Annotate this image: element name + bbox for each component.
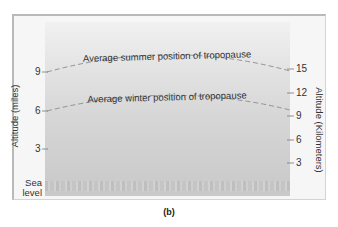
panel-label: (b)	[163, 207, 175, 217]
tropopause-curves	[0, 0, 338, 227]
right-tick-12: 12	[296, 88, 307, 98]
left-tick-3: 3	[35, 144, 41, 154]
right-tick-6: 6	[296, 135, 302, 145]
sea-level-label-line2: level	[20, 188, 42, 198]
right-tick-15: 15	[296, 64, 307, 74]
right-tick-3: 3	[296, 158, 302, 168]
left-axis-ticks	[42, 72, 48, 149]
right-axis-ticks	[287, 69, 294, 163]
left-tick-9: 9	[35, 67, 41, 77]
left-axis-title: Altitude (miles)	[9, 85, 20, 148]
left-tick-6: 6	[35, 106, 41, 116]
sea-level-label: Sea level	[20, 178, 42, 198]
right-axis-title: Altitude (Kilometers)	[314, 87, 325, 173]
right-tick-9: 9	[296, 111, 302, 121]
